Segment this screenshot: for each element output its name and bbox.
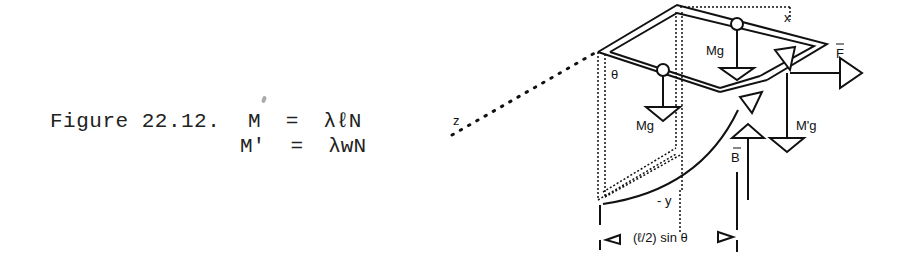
x-axis-label: x bbox=[784, 10, 791, 25]
b-label: B bbox=[731, 150, 740, 165]
force-mg-top: Mg bbox=[706, 30, 754, 80]
mg-left-label: Mg bbox=[636, 118, 654, 133]
force-mprime-g: M'g bbox=[770, 73, 817, 152]
z-axis-label: z bbox=[453, 113, 460, 128]
pivot-left bbox=[657, 64, 669, 76]
y-axis-label: - y bbox=[657, 193, 672, 208]
force-B: B bbox=[731, 124, 764, 200]
reaction-arrow bbox=[740, 92, 762, 113]
dimension-label: (ℓ/2) sin θ bbox=[633, 230, 688, 245]
force-F: F bbox=[790, 44, 862, 88]
mprime-g-label: M'g bbox=[796, 118, 817, 133]
pivot-top bbox=[731, 18, 743, 30]
physics-diagram: Mg Mg F M'g B (ℓ/2) sin θ x bbox=[0, 0, 900, 267]
mg-top-label: Mg bbox=[706, 43, 724, 58]
z-axis bbox=[452, 50, 600, 135]
f-label: F bbox=[836, 46, 844, 61]
force-mg-left: Mg bbox=[636, 76, 680, 133]
theta-label: θ bbox=[611, 67, 618, 82]
